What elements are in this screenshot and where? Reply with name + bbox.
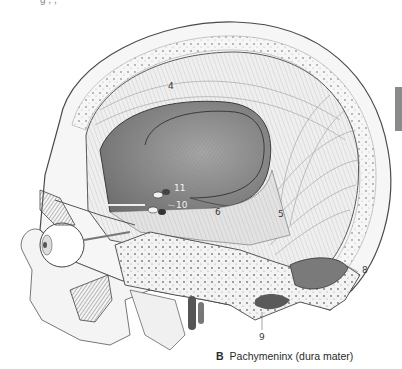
callout-10: 10: [176, 201, 187, 210]
callout-6: 6: [215, 208, 221, 217]
internal-carotid-artery: [188, 296, 196, 330]
chapter-thumb-tab: [395, 87, 402, 131]
callout-4: 4: [168, 82, 174, 91]
callout-9: 9: [259, 333, 265, 342]
anatomy-figure: g , ,: [0, 0, 402, 369]
skull-dura-illustration: [0, 0, 402, 369]
caption-panel-letter: B: [216, 350, 224, 362]
callout-8: 8: [362, 266, 368, 275]
callout-5: 5: [278, 210, 284, 219]
figure-caption: BPachymeninx (dura mater): [216, 350, 353, 362]
caption-text: Pachymeninx (dura mater): [230, 350, 354, 362]
mandible: [130, 290, 185, 350]
callout-11: 11: [174, 184, 185, 193]
